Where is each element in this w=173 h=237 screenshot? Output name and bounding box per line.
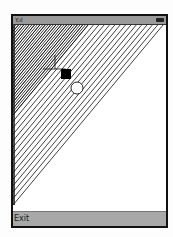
drawing-canvas[interactable]: [13, 25, 166, 211]
phone-screen: Y.ıl Exit: [11, 14, 168, 228]
control-point-circle[interactable]: [71, 82, 83, 94]
exit-softkey[interactable]: Exit: [14, 214, 29, 224]
control-point-square[interactable]: [61, 69, 71, 79]
string-art-lines: [13, 25, 163, 205]
softkey-bar: Exit: [13, 211, 166, 226]
battery-icon: [156, 18, 164, 22]
status-bar: Y.ıl: [13, 16, 166, 25]
signal-antenna-icon: Y.ıl: [15, 16, 23, 24]
